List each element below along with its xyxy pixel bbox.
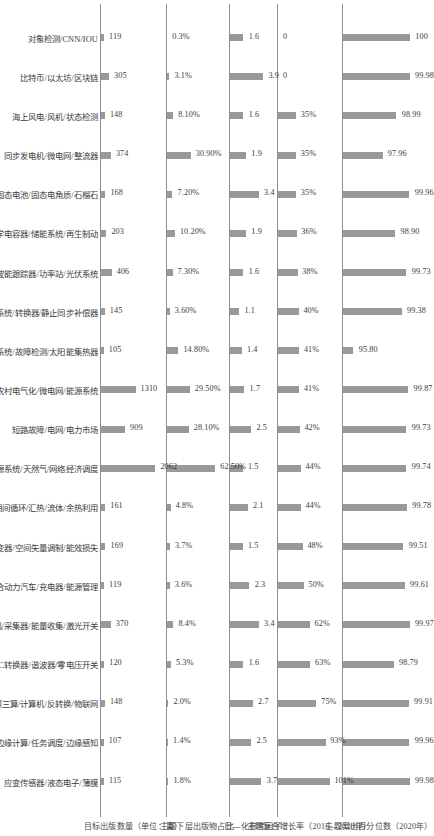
bar-slot[interactable]: 3.1%	[167, 57, 229, 96]
bar-slot[interactable]: 161	[101, 488, 166, 527]
bar[interactable]	[343, 152, 383, 159]
bar-slot[interactable]: 63%	[278, 645, 341, 684]
bar-slot[interactable]: 10.20%	[167, 214, 229, 253]
bar[interactable]	[278, 778, 329, 785]
bar[interactable]	[230, 347, 242, 354]
category-slot[interactable]: 农村电气化/微电网/能源系统	[2, 370, 100, 409]
bar-slot[interactable]: 148	[101, 684, 166, 723]
bar-slot[interactable]: 4.8%	[167, 488, 229, 527]
bar-slot[interactable]: 374	[101, 135, 166, 174]
bar[interactable]	[343, 269, 407, 276]
bar[interactable]	[278, 739, 325, 746]
bar-slot[interactable]: 1.6	[230, 96, 278, 135]
bar-slot[interactable]: 119	[101, 566, 166, 605]
bar-slot[interactable]: 99.96	[343, 175, 417, 214]
bar[interactable]	[278, 269, 297, 276]
bar-slot[interactable]: 35%	[278, 96, 341, 135]
bar-slot[interactable]: 1.9	[230, 135, 278, 174]
bar-slot[interactable]: 1.4	[230, 331, 278, 370]
bar-slot[interactable]: 7.20%	[167, 175, 229, 214]
category-slot[interactable]: 比特币/以太坊/区块链	[2, 57, 100, 96]
bar-slot[interactable]: 99.91	[343, 684, 417, 723]
bar-slot[interactable]: 3.9	[230, 57, 278, 96]
bar[interactable]	[343, 347, 354, 354]
bar[interactable]	[230, 582, 250, 589]
bar-slot[interactable]: 2.0%	[167, 684, 229, 723]
bar-slot[interactable]: 1.5	[230, 527, 278, 566]
bar-slot[interactable]: 145	[101, 292, 166, 331]
category-slot[interactable]: 电化学电容器/储能系统/再生制动	[2, 214, 100, 253]
bar[interactable]	[278, 191, 296, 198]
category-slot[interactable]: 短路故障/电网/电力市场	[2, 410, 100, 449]
bar[interactable]	[101, 191, 105, 198]
bar-slot[interactable]: 93%	[278, 723, 341, 762]
bar[interactable]	[101, 621, 111, 628]
bar-slot[interactable]: 97.96	[343, 135, 417, 174]
bar-slot[interactable]: 35%	[278, 175, 341, 214]
category-slot[interactable]: 纯水发电机/采集器/能量收集/激光开关	[2, 605, 100, 644]
bar-slot[interactable]: 7.30%	[167, 253, 229, 292]
bar[interactable]	[278, 700, 316, 707]
category-slot[interactable]: 期间循环/汇热/流体/余热利用	[2, 488, 100, 527]
bar[interactable]	[278, 582, 303, 589]
bar-slot[interactable]: 3.7	[230, 762, 278, 801]
bar-slot[interactable]: 2.7	[230, 684, 278, 723]
bar-slot[interactable]: 3.60%	[167, 292, 229, 331]
bar[interactable]	[167, 152, 191, 159]
bar[interactable]	[278, 152, 296, 159]
bar-slot[interactable]: 115	[101, 762, 166, 801]
bar-slot[interactable]: 119	[101, 18, 166, 57]
bar[interactable]	[167, 230, 175, 237]
bar[interactable]	[230, 661, 244, 668]
bar[interactable]	[101, 269, 112, 276]
bar[interactable]	[343, 308, 402, 315]
bar[interactable]	[101, 34, 104, 41]
bar[interactable]	[343, 621, 410, 628]
bar[interactable]	[101, 386, 136, 393]
bar-slot[interactable]: 1.4%	[167, 723, 229, 762]
category-slot[interactable]: 对象检测/CNN/IOU	[2, 18, 100, 57]
bar[interactable]	[167, 308, 170, 315]
bar[interactable]	[343, 426, 407, 433]
bar[interactable]	[101, 347, 104, 354]
category-slot[interactable]: 电大波能跟踪器/功率站/光伏系统	[2, 253, 100, 292]
bar[interactable]	[230, 543, 243, 550]
bar-slot[interactable]: 370	[101, 605, 166, 644]
bar-slot[interactable]: 0.3%	[167, 18, 229, 57]
bar-slot[interactable]: 42%	[278, 410, 341, 449]
bar-slot[interactable]: 48%	[278, 527, 341, 566]
category-slot[interactable]: 同步发电机/微电网/整流器	[2, 135, 100, 174]
bar-slot[interactable]: 75%	[278, 684, 341, 723]
bar-slot[interactable]: 5.3%	[167, 645, 229, 684]
bar-slot[interactable]: 3.4	[230, 175, 278, 214]
bar[interactable]	[278, 543, 302, 550]
bar[interactable]	[101, 465, 155, 472]
bar[interactable]	[278, 661, 310, 668]
bar-slot[interactable]: 99.51	[343, 527, 417, 566]
bar-slot[interactable]: 1.9	[230, 214, 278, 253]
bar-slot[interactable]: 203	[101, 214, 166, 253]
bar-slot[interactable]: 36%	[278, 214, 341, 253]
bar[interactable]	[230, 621, 259, 628]
bar[interactable]	[101, 112, 105, 119]
bar-slot[interactable]: 99.78	[343, 488, 417, 527]
bar-slot[interactable]: 1.1	[230, 292, 278, 331]
bar[interactable]	[101, 230, 106, 237]
bar[interactable]	[167, 386, 190, 393]
bar-slot[interactable]: 120	[101, 645, 166, 684]
bar[interactable]	[230, 308, 239, 315]
bar-slot[interactable]: 3.6%	[167, 566, 229, 605]
bar[interactable]	[167, 739, 168, 746]
bar-slot[interactable]: 169	[101, 527, 166, 566]
bar[interactable]	[278, 426, 299, 433]
category-slot[interactable]: 插电式混合动力汽车/充电器/能源管理	[2, 566, 100, 605]
bar-slot[interactable]: 99.38	[343, 292, 417, 331]
category-slot[interactable]: 高压直流系统/转换器/静止同步补偿器	[2, 292, 100, 331]
bar[interactable]	[278, 308, 298, 315]
bar-slot[interactable]: 406	[101, 253, 166, 292]
bar-slot[interactable]: 0	[278, 57, 341, 96]
bar[interactable]	[343, 34, 410, 41]
bar[interactable]	[167, 191, 173, 198]
bar[interactable]	[278, 112, 296, 119]
bar[interactable]	[101, 426, 125, 433]
